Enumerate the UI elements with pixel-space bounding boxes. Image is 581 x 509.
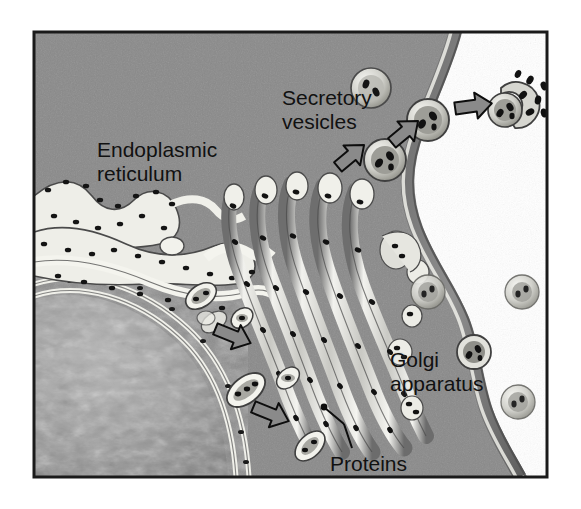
- cytoplasmic-vesicle-2: [505, 275, 539, 309]
- label-proteins: Proteins: [330, 452, 407, 476]
- label-golgi-apparatus: Golgi apparatus: [390, 348, 483, 395]
- er-bud: [160, 237, 184, 255]
- label-secretory-vesicles: Secretory vesicles: [282, 86, 372, 133]
- cell-diagram-svg: [0, 0, 581, 509]
- figure-container: Endoplasmic reticulum Secretory vesicles…: [0, 0, 581, 509]
- label-endoplasmic-reticulum: Endoplasmic reticulum: [97, 138, 217, 185]
- cytoplasmic-vesicle-4: [501, 385, 535, 419]
- cytoplasmic-vesicle-1: [411, 275, 445, 309]
- er-budding-vesicle: [197, 311, 215, 325]
